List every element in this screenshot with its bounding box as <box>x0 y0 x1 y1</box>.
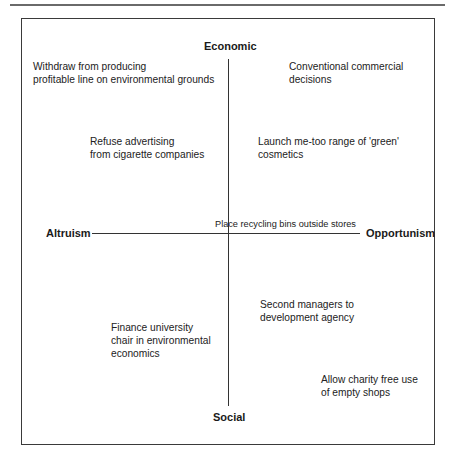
item-line: cosmetics <box>258 148 399 161</box>
item-charity-shops: Allow charity free use of empty shops <box>321 373 418 399</box>
item-line: from cigarette companies <box>90 148 204 161</box>
item-line: Allow charity free use <box>321 373 418 386</box>
item-line: Place recycling bins outside stores <box>215 218 356 231</box>
item-recycling-bins: Place recycling bins outside stores <box>215 218 356 231</box>
axis-label-opportunism: Opportunism <box>366 227 435 240</box>
axis-label-economic: Economic <box>204 40 257 53</box>
axis-label-altruism: Altruism <box>46 227 91 240</box>
item-line: decisions <box>289 73 403 86</box>
item-line: Withdraw from producing <box>33 60 214 73</box>
item-line: profitable line on environmental grounds <box>33 73 214 86</box>
axis-label-social: Social <box>213 411 245 424</box>
item-line: Second managers to <box>260 298 354 311</box>
top-rule <box>10 4 445 6</box>
item-finance-chair: Finance university chair in environmenta… <box>111 321 211 360</box>
altruism-opportunism-axis <box>92 233 360 234</box>
item-line: Conventional commercial <box>289 60 403 73</box>
item-launch-cosmetics: Launch me-too range of 'green' cosmetics <box>258 135 399 161</box>
item-line: economics <box>111 347 211 360</box>
item-withdraw: Withdraw from producing profitable line … <box>33 60 214 86</box>
item-line: of empty shops <box>321 386 418 399</box>
item-line: Launch me-too range of 'green' <box>258 135 399 148</box>
item-second-managers: Second managers to development agency <box>260 298 354 324</box>
item-line: chair in environmental <box>111 334 211 347</box>
item-line: Finance university <box>111 321 211 334</box>
item-refuse-advertising: Refuse advertising from cigarette compan… <box>90 135 204 161</box>
item-line: Refuse advertising <box>90 135 204 148</box>
item-line: development agency <box>260 311 354 324</box>
item-conventional: Conventional commercial decisions <box>289 60 403 86</box>
